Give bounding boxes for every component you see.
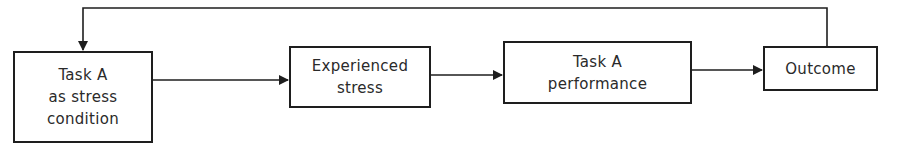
node-label-line: as stress	[49, 86, 118, 108]
node-label-line: Task A	[573, 51, 622, 73]
node-task-a-performance: Task A performance	[503, 41, 692, 104]
arrow-feedback-outcome-to-stress	[83, 8, 827, 50]
node-label-line: Task A	[58, 64, 107, 86]
node-task-a-stress-condition: Task A as stress condition	[13, 51, 153, 143]
node-experienced-stress: Experienced stress	[289, 46, 431, 108]
node-label-line: Outcome	[785, 58, 856, 80]
node-label-line: performance	[548, 73, 647, 95]
node-label-line: stress	[337, 77, 383, 99]
node-outcome: Outcome	[763, 46, 878, 91]
node-label-line: condition	[47, 108, 119, 130]
node-label-line: Experienced	[312, 55, 408, 77]
